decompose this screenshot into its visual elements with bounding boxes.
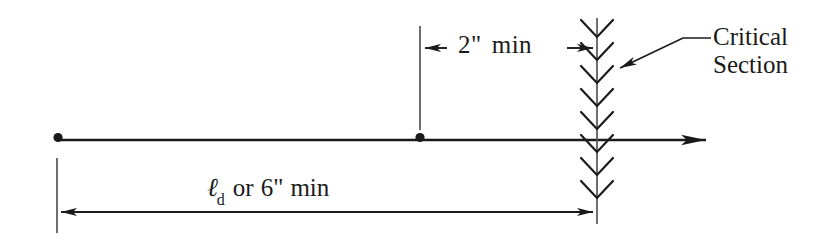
development-length-subscript: d [217,191,225,208]
critical-section-callout-label: Critical Section [713,23,788,79]
diagram-canvas: 2"min ℓdor6"min Critical Section [0,0,834,250]
bar-node-mid [415,133,424,142]
top-dimension-qualifier: min [492,31,532,58]
top-dimension-label: 2"min [458,31,532,59]
bottom-dimension-value: 6" [261,174,284,201]
callout-line-2: Section [713,51,788,79]
bar-end-node-left [53,133,62,142]
callout-leader-line [620,38,711,68]
bottom-dimension-conjunction: or [233,174,254,201]
top-dimension-value: 2" [458,31,482,58]
bottom-dimension-label: ℓdor6"min [207,173,329,206]
diagram-svg [0,0,834,250]
bottom-dimension-qualifier: min [290,174,329,201]
callout-leader-group [620,38,711,68]
callout-line-1: Critical [713,23,788,50]
